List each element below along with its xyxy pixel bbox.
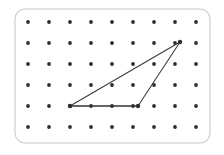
peg-r5-c7[interactable] — [173, 125, 177, 129]
peg-r1-c4[interactable] — [110, 41, 114, 45]
peg-r3-c4[interactable] — [110, 83, 114, 87]
peg-r2-c1[interactable] — [47, 62, 51, 66]
peg-r0-c2[interactable] — [68, 20, 72, 24]
peg-r1-c6[interactable] — [152, 41, 156, 45]
peg-r1-c5[interactable] — [131, 41, 135, 45]
peg-r0-c5[interactable] — [131, 20, 135, 24]
peg-r0-c4[interactable] — [110, 20, 114, 24]
peg-r0-c8[interactable] — [194, 20, 198, 24]
peg-r2-c0[interactable] — [26, 62, 30, 66]
peg-r2-c8[interactable] — [194, 62, 198, 66]
peg-r3-c8[interactable] — [194, 83, 198, 87]
peg-r3-c2[interactable] — [68, 83, 72, 87]
peg-r3-c7[interactable] — [173, 83, 177, 87]
peg-r3-c3[interactable] — [89, 83, 93, 87]
peg-r0-c3[interactable] — [89, 20, 93, 24]
peg-r0-c0[interactable] — [26, 20, 30, 24]
peg-r2-c2[interactable] — [68, 62, 72, 66]
peg-r5-c5[interactable] — [131, 125, 135, 129]
peg-r1-c0[interactable] — [26, 41, 30, 45]
peg-r1-c8[interactable] — [194, 41, 198, 45]
peg-r2-c3[interactable] — [89, 62, 93, 66]
triangle-vertex-A[interactable] — [68, 104, 72, 108]
peg-r5-c2[interactable] — [68, 125, 72, 129]
peg-r2-c6[interactable] — [152, 62, 156, 66]
peg-r5-c0[interactable] — [26, 125, 30, 129]
peg-r5-c6[interactable] — [152, 125, 156, 129]
peg-r1-c2[interactable] — [68, 41, 72, 45]
geoboard-frame — [15, 9, 210, 143]
peg-r0-c7[interactable] — [173, 20, 177, 24]
peg-r4-c1[interactable] — [47, 104, 51, 108]
peg-r3-c1[interactable] — [47, 83, 51, 87]
peg-r1-c1[interactable] — [47, 41, 51, 45]
peg-r5-c3[interactable] — [89, 125, 93, 129]
peg-r1-c3[interactable] — [89, 41, 93, 45]
peg-r4-c0[interactable] — [26, 104, 30, 108]
geoboard-canvas — [0, 0, 224, 155]
peg-r2-c7[interactable] — [173, 62, 177, 66]
peg-r0-c1[interactable] — [47, 20, 51, 24]
peg-r4-c8[interactable] — [194, 104, 198, 108]
peg-r5-c8[interactable] — [194, 125, 198, 129]
peg-r4-c7[interactable] — [173, 104, 177, 108]
triangle-vertex-B[interactable] — [136, 104, 140, 108]
peg-r0-c6[interactable] — [152, 20, 156, 24]
triangle-vertex-C[interactable] — [178, 40, 182, 44]
peg-r5-c1[interactable] — [47, 125, 51, 129]
peg-r2-c4[interactable] — [110, 62, 114, 66]
peg-r5-c4[interactable] — [110, 125, 114, 129]
peg-r3-c0[interactable] — [26, 83, 30, 87]
peg-r4-c6[interactable] — [152, 104, 156, 108]
peg-r2-c5[interactable] — [131, 62, 135, 66]
geoboard-figure — [0, 0, 224, 155]
peg-r3-c5[interactable] — [131, 83, 135, 87]
